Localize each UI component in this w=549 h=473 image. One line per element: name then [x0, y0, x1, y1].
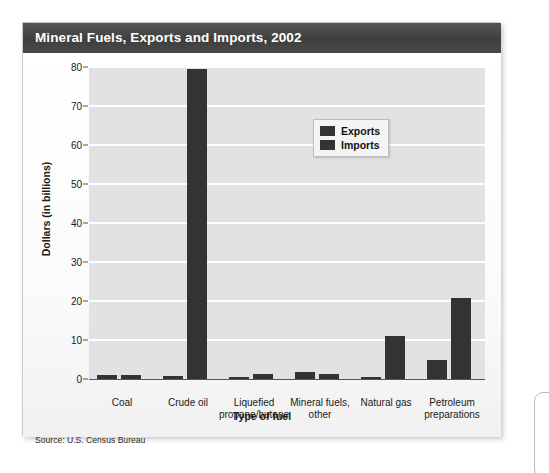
- y-axis-tick-label: 30: [71, 257, 82, 268]
- y-axis-tick-mark: [83, 223, 88, 224]
- y-axis-tick-label: 10: [71, 335, 82, 346]
- adjacent-panel-edge: [534, 392, 549, 473]
- chart-legend: Exports Imports: [313, 119, 389, 157]
- bar-exports: [229, 377, 249, 379]
- y-axis-tick-mark: [83, 67, 88, 68]
- bar-exports: [427, 360, 447, 380]
- source-note: Source: U.S. Census Bureau: [35, 435, 145, 445]
- bar-imports: [121, 375, 141, 379]
- y-axis-tick-label: 0: [76, 374, 82, 385]
- y-axis-tick-mark: [83, 184, 88, 185]
- bar-exports: [97, 375, 117, 379]
- bar-imports: [319, 374, 339, 379]
- y-axis-tick-label: 60: [71, 140, 82, 151]
- plot-area-wrapper: 01020304050607080 CoalCrude oilLiquefied…: [89, 67, 485, 379]
- bar-imports: [451, 298, 471, 379]
- y-axis-tick-mark: [83, 145, 88, 146]
- y-axis-tick-label: 70: [71, 101, 82, 112]
- bar-group: [155, 67, 221, 379]
- legend-label-imports: Imports: [341, 139, 380, 151]
- bar-group: [89, 67, 155, 379]
- y-axis-tick-mark: [83, 262, 88, 263]
- y-axis-tick-mark: [83, 340, 88, 341]
- y-axis-tick-mark: [83, 379, 88, 380]
- bar-group: [419, 67, 485, 379]
- legend-item-exports: Exports: [320, 124, 380, 138]
- legend-item-imports: Imports: [320, 138, 380, 152]
- bar-imports: [253, 374, 273, 379]
- legend-label-exports: Exports: [341, 125, 380, 137]
- y-axis-tick-label: 20: [71, 296, 82, 307]
- x-axis-title: Type of fuel: [23, 410, 501, 422]
- bar-group: [287, 67, 353, 379]
- screenshot-root: Mineral Fuels, Exports and Imports, 2002…: [0, 0, 549, 473]
- bar-exports: [295, 372, 315, 379]
- legend-swatch-imports: [320, 140, 335, 150]
- bar-exports: [361, 377, 381, 379]
- y-axis-tick-label: 40: [71, 218, 82, 229]
- bar-imports: [385, 336, 405, 379]
- bar-imports: [187, 69, 207, 379]
- y-axis-tick-mark: [83, 106, 88, 107]
- legend-swatch-exports: [320, 126, 335, 136]
- chart-title-bar: Mineral Fuels, Exports and Imports, 2002: [23, 23, 501, 53]
- y-axis-tick-label: 50: [71, 179, 82, 190]
- chart-body: Dollars (in billions) 01020304050607080 …: [23, 53, 501, 437]
- chart-title: Mineral Fuels, Exports and Imports, 2002: [35, 30, 302, 45]
- bar-group: [353, 67, 419, 379]
- y-axis-title: Dollars (in billions): [40, 124, 52, 294]
- plot-area: 01020304050607080: [89, 67, 485, 380]
- y-axis-tick-label: 80: [71, 62, 82, 73]
- y-axis-tick-mark: [83, 301, 88, 302]
- chart-card: Mineral Fuels, Exports and Imports, 2002…: [22, 22, 500, 436]
- bar-group: [221, 67, 287, 379]
- bar-exports: [163, 376, 183, 379]
